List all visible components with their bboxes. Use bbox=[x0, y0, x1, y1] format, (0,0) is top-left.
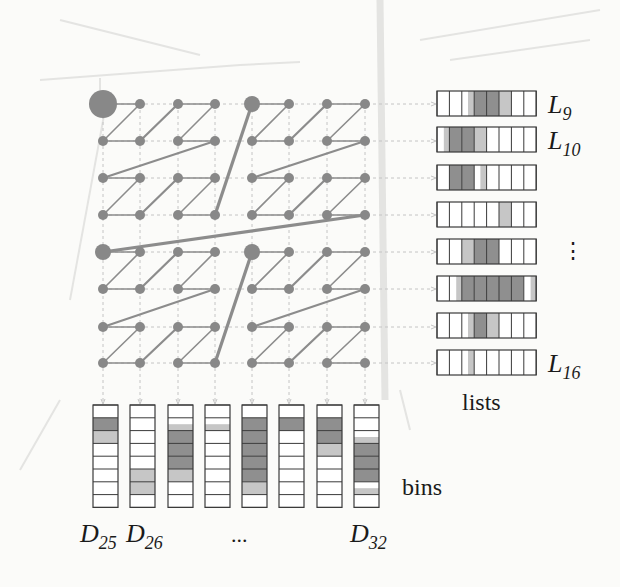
grid-node bbox=[244, 244, 260, 260]
grid-node bbox=[247, 210, 257, 220]
grid-node bbox=[322, 136, 332, 146]
list-cell bbox=[487, 202, 499, 227]
grid-node bbox=[135, 99, 145, 109]
list-cell bbox=[524, 313, 536, 338]
grid-node bbox=[284, 173, 294, 183]
lists-caption: lists bbox=[462, 389, 501, 415]
grid-node bbox=[360, 284, 370, 294]
list-cell bbox=[511, 350, 523, 375]
bin-cell bbox=[279, 456, 304, 469]
curve-edge bbox=[215, 104, 252, 215]
grid-node bbox=[173, 136, 183, 146]
list-cell bbox=[437, 239, 449, 264]
list-cell bbox=[437, 165, 449, 190]
grid-node bbox=[322, 210, 332, 220]
bin-cell-fill bbox=[354, 488, 379, 494]
bin-cell-fill bbox=[168, 443, 193, 456]
bin-cell bbox=[205, 469, 230, 482]
list-row bbox=[437, 91, 536, 116]
bin-cell bbox=[130, 405, 155, 418]
grid-node bbox=[284, 99, 294, 109]
list-row bbox=[437, 202, 536, 227]
diagram-canvas: L9L10L16⋮listsD25D26D32...bins bbox=[0, 0, 620, 587]
grid-node bbox=[210, 136, 220, 146]
list-cell-fill bbox=[474, 91, 486, 116]
curve-edge bbox=[252, 327, 289, 363]
list-cell bbox=[487, 165, 499, 190]
list-cell bbox=[511, 127, 523, 152]
bin-cell bbox=[93, 456, 118, 469]
grid-node bbox=[98, 284, 108, 294]
list-cell-fill bbox=[462, 165, 474, 190]
bins-caption: bins bbox=[402, 474, 442, 500]
bin-label-D32: D32 bbox=[349, 519, 387, 553]
bin-cell bbox=[205, 431, 230, 444]
bin-label-D26: D26 bbox=[125, 519, 163, 553]
arrow-to-list-icon bbox=[431, 102, 436, 106]
grid-node bbox=[210, 247, 220, 257]
bin-cell bbox=[317, 405, 342, 418]
arrow-to-list-icon bbox=[431, 213, 436, 217]
bin-cell-fill bbox=[279, 418, 304, 431]
bin-cell-fill bbox=[205, 424, 230, 430]
bin-column bbox=[130, 405, 155, 507]
list-cell-fill bbox=[474, 276, 486, 301]
list-cell bbox=[474, 202, 486, 227]
curve-edge bbox=[103, 327, 140, 363]
bin-cell-fill bbox=[354, 443, 379, 456]
bin-cell-fill bbox=[168, 456, 193, 469]
curve-edge bbox=[289, 178, 327, 215]
list-cell-fill bbox=[462, 127, 474, 152]
bin-cell bbox=[317, 456, 342, 469]
bin-cell bbox=[279, 469, 304, 482]
bin-cell-fill bbox=[354, 469, 379, 482]
bin-cell-fill bbox=[168, 424, 193, 430]
grid-node bbox=[244, 96, 260, 112]
bin-cell bbox=[242, 495, 267, 508]
list-cell bbox=[449, 91, 461, 116]
list-cell-fill bbox=[474, 313, 486, 338]
bin-column bbox=[317, 405, 342, 507]
grid-node bbox=[284, 284, 294, 294]
curve-edge bbox=[178, 104, 215, 141]
bin-cell-fill bbox=[242, 431, 267, 444]
grid-node bbox=[322, 358, 332, 368]
list-row bbox=[437, 239, 536, 264]
list-cell-fill bbox=[449, 165, 461, 190]
list-label-L9: L9 bbox=[547, 90, 571, 124]
grid-node bbox=[247, 322, 257, 332]
bin-cell bbox=[168, 482, 193, 495]
list-cell bbox=[499, 239, 511, 264]
bin-cell bbox=[317, 482, 342, 495]
list-cell-fill bbox=[480, 165, 486, 190]
grid-node bbox=[360, 173, 370, 183]
bin-cell-fill bbox=[130, 469, 155, 482]
list-cell bbox=[499, 350, 511, 375]
list-cell-fill bbox=[456, 276, 462, 301]
list-row bbox=[437, 313, 536, 338]
list-cell-fill bbox=[487, 276, 499, 301]
curve-edge bbox=[327, 327, 365, 363]
list-cell-fill bbox=[468, 313, 474, 338]
bin-column bbox=[205, 405, 230, 507]
curve-edge bbox=[289, 252, 327, 289]
list-cell bbox=[449, 202, 461, 227]
grid-node bbox=[173, 322, 183, 332]
grid-node bbox=[247, 358, 257, 368]
bin-cell bbox=[354, 418, 379, 431]
grid-node bbox=[135, 136, 145, 146]
grid-node bbox=[360, 136, 370, 146]
curve-edge bbox=[103, 178, 140, 215]
grid-node bbox=[284, 322, 294, 332]
grid-node bbox=[135, 173, 145, 183]
list-cell bbox=[437, 91, 449, 116]
bin-cell-fill bbox=[242, 456, 267, 469]
grid-node bbox=[98, 358, 108, 368]
grid-node bbox=[173, 210, 183, 220]
bin-cell bbox=[130, 443, 155, 456]
grid-node bbox=[210, 358, 220, 368]
bleed-stroke bbox=[20, 400, 60, 470]
list-cell bbox=[524, 202, 536, 227]
list-cell-fill bbox=[462, 276, 474, 301]
grid-node bbox=[322, 173, 332, 183]
